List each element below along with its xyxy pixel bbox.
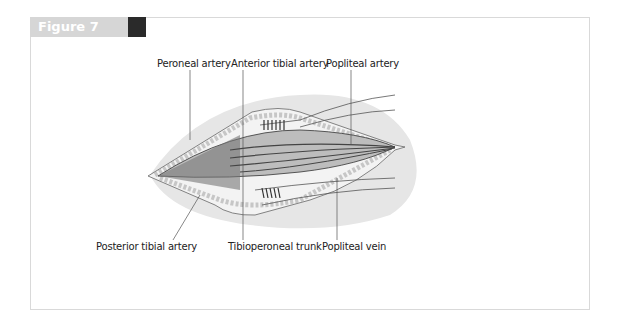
label-popliteal-vein: Popliteal vein (322, 241, 386, 252)
label-popliteal-artery: Popliteal artery (326, 58, 399, 69)
label-tibioperoneal-trunk: Tibioperoneal trunk (228, 241, 322, 252)
label-posterior-tibial-artery: Posterior tibial artery (96, 241, 197, 252)
label-anterior-tibial-artery: Anterior tibial artery (231, 58, 328, 69)
anatomical-illustration (0, 0, 622, 327)
label-peroneal-artery: Peroneal artery (157, 58, 231, 69)
